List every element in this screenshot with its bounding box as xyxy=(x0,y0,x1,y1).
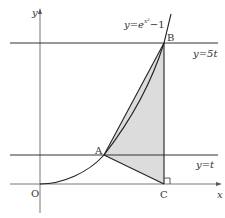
point-c-label: C xyxy=(160,189,168,200)
diagram-canvas: y x O y=ex²−1 y=5t y=t A B C xyxy=(0,0,225,218)
origin-label: O xyxy=(31,188,39,199)
shaded-triangle-abc xyxy=(104,43,164,184)
x-axis-label: x xyxy=(217,189,223,200)
line-y-5t-label: y=5t xyxy=(192,48,218,59)
y-axis-label: y xyxy=(31,7,38,18)
curve-label-prefix: y=e xyxy=(123,19,144,30)
curve-label-suffix: −1 xyxy=(150,19,165,30)
y-axis-arrow-icon xyxy=(38,8,42,14)
line-y-t-label: y=t xyxy=(195,159,215,170)
x-axis-arrow-icon xyxy=(216,182,222,186)
point-a-label: A xyxy=(94,145,103,156)
right-angle-marker-icon xyxy=(164,178,170,184)
point-b-label: B xyxy=(167,32,174,43)
curve-label: y=ex²−1 xyxy=(123,17,165,30)
